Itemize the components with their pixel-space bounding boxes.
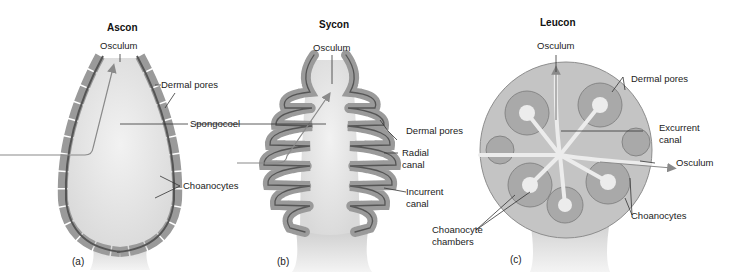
label-dermal-pores: Dermal pores [406, 125, 463, 137]
label-osculum: Osculum [313, 42, 350, 54]
panel-title: Ascon [107, 22, 138, 33]
label-line: Choanocyte [432, 224, 483, 236]
panel-ascon: Ascon Osculum Dermal pores Spongocoel Ch… [0, 0, 230, 275]
panel-tag: (c) [510, 254, 522, 265]
label-osculum-side: Osculum [676, 157, 713, 169]
label-line: canal [402, 159, 429, 171]
panel-tag: (b) [277, 256, 289, 267]
label-dermal-pores: Dermal pores [631, 73, 688, 85]
label-choanocyte-chambers: Choanocyte chambers [432, 224, 483, 248]
label-line: canal [659, 134, 700, 146]
panel-title: Leucon [540, 17, 576, 28]
label-osculum-top: Osculum [537, 40, 574, 52]
label-osculum: Osculum [100, 40, 137, 52]
label-line: Excurrent [659, 122, 700, 134]
label-radial-canal: Radial canal [402, 147, 429, 171]
label-line: Incurrent [406, 186, 444, 198]
label-excurrent-canal: Excurrent canal [659, 122, 700, 146]
label-choanocytes: Choanocytes [631, 210, 686, 222]
panel-leucon: Leucon Osculum Dermal pores Excurrent ca… [470, 0, 738, 275]
label-line: canal [406, 198, 444, 210]
label-line: chambers [432, 236, 483, 248]
label-line: Radial [402, 147, 429, 159]
panel-title: Sycon [319, 19, 349, 30]
label-incurrent-canal: Incurrent canal [406, 186, 444, 210]
label-dermal-pores: Dermal pores [161, 79, 218, 91]
panel-tag: (a) [72, 256, 84, 267]
